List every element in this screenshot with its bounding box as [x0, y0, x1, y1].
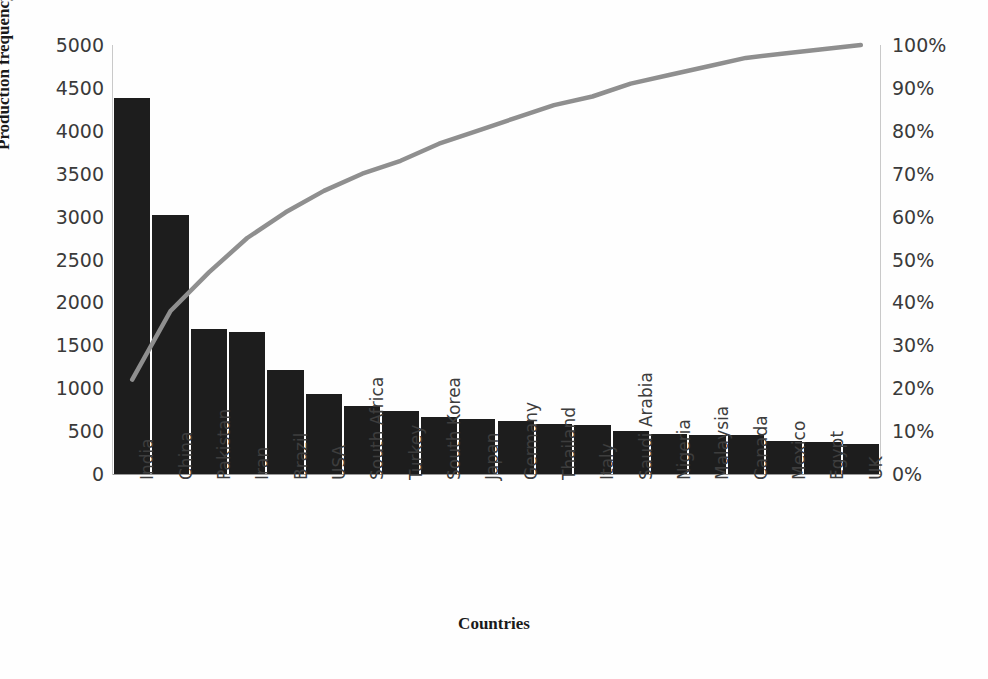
x-tick-label: South Africa — [369, 377, 386, 480]
right-axis-tick-labels: 0%10%20%30%40%50%60%70%80%90%100% — [892, 45, 962, 475]
x-tick-label: Nigeria — [676, 419, 693, 480]
x-tick-label: Egypt — [829, 431, 846, 480]
right-axis-line — [880, 45, 881, 475]
bar-slot — [266, 45, 304, 474]
y-tick-label: 4000 — [40, 121, 104, 140]
y2-tick-label: 10% — [892, 422, 934, 441]
left-axis-tick-labels: 0500100015002000250030003500400045005000 — [40, 45, 104, 475]
y2-tick-label: 0% — [892, 465, 922, 484]
x-tick-label: Malaysia — [714, 406, 731, 480]
x-axis-title: Countries — [0, 614, 988, 634]
bar-slot — [381, 45, 419, 474]
x-tick-label: Brazil — [293, 433, 310, 480]
y2-tick-label: 70% — [892, 164, 934, 183]
bar-slot — [113, 45, 151, 474]
bar-slot — [727, 45, 765, 474]
x-tick-label: UK — [868, 456, 885, 480]
y2-tick-label: 20% — [892, 379, 934, 398]
y-tick-label: 1500 — [40, 336, 104, 355]
pareto-chart: 0500100015002000250030003500400045005000… — [0, 0, 988, 679]
bar-slot — [842, 45, 880, 474]
x-tick-label: Japan — [484, 433, 501, 480]
x-tick-label: Germany — [523, 402, 540, 480]
y-tick-label: 500 — [40, 422, 104, 441]
y-tick-label: 0 — [40, 465, 104, 484]
y-axis-title: Production frequency — [0, 0, 14, 150]
y-tick-label: 2500 — [40, 250, 104, 269]
x-tick-label: Saudi Arabia — [638, 372, 655, 480]
x-axis-tick-labels: IndiaChinaPakistanIranBrazilUSASouth Afr… — [113, 478, 880, 608]
x-tick-label: India — [139, 438, 156, 480]
y-tick-label: 3500 — [40, 164, 104, 183]
x-tick-label: Iran — [254, 447, 271, 480]
y-tick-label: 4500 — [40, 78, 104, 97]
bar-slot — [305, 45, 343, 474]
x-tick-label: Italy — [599, 443, 616, 480]
y-tick-label: 1000 — [40, 379, 104, 398]
bar-slot — [765, 45, 803, 474]
y2-tick-label: 60% — [892, 207, 934, 226]
y-tick-label: 3000 — [40, 207, 104, 226]
y2-tick-label: 100% — [892, 36, 946, 55]
x-tick-label: Pakistan — [216, 409, 233, 480]
x-tick-label: Mexico — [791, 421, 808, 480]
x-tick-label: South Korea — [446, 377, 463, 480]
bar-slot — [151, 45, 189, 474]
y2-tick-label: 30% — [892, 336, 934, 355]
y-tick-label: 5000 — [40, 36, 104, 55]
y2-tick-label: 40% — [892, 293, 934, 312]
bar-slot — [803, 45, 841, 474]
x-tick-label: Thailand — [561, 407, 578, 480]
y2-tick-label: 50% — [892, 250, 934, 269]
bar — [114, 98, 150, 474]
x-tick-label: Canada — [753, 415, 770, 480]
y2-tick-label: 90% — [892, 78, 934, 97]
x-tick-label: China — [178, 431, 195, 480]
y2-tick-label: 80% — [892, 121, 934, 140]
x-tick-label: Turkey — [408, 425, 425, 480]
x-tick-label: USA — [331, 445, 348, 480]
y-tick-label: 2000 — [40, 293, 104, 312]
